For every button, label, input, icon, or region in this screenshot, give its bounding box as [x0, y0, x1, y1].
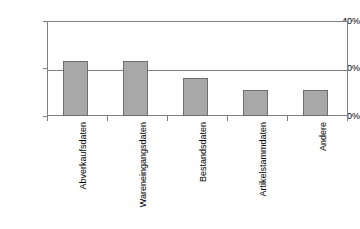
- bar-andere[interactable]: [303, 90, 328, 116]
- x-tick-2: [167, 116, 168, 121]
- bars-layer: [0, 0, 360, 229]
- bar-abverkaufsdaten[interactable]: [63, 61, 88, 116]
- bar-chart: 40% 20% 0% Abverkaufsdaten Wareneingangs…: [0, 0, 360, 229]
- bar-wareneingangsdaten[interactable]: [123, 61, 148, 116]
- x-tick-1: [107, 116, 108, 121]
- category-label-wareneingangsdaten: Wareneingangsdaten: [139, 122, 148, 207]
- x-tick-0: [47, 116, 48, 121]
- x-tick-5: [347, 116, 348, 121]
- category-label-artikelstammdaten: Artikelstammdaten: [259, 122, 268, 197]
- x-tick-3: [227, 116, 228, 121]
- x-tick-4: [287, 116, 288, 121]
- category-label-bestandsdaten: Bestandsdaten: [199, 122, 208, 182]
- bar-bestandsdaten[interactable]: [183, 78, 208, 116]
- category-label-andere: Andere: [319, 122, 328, 151]
- bar-artikelstammdaten[interactable]: [243, 90, 268, 116]
- category-label-abverkaufsdaten: Abverkaufsdaten: [79, 122, 88, 190]
